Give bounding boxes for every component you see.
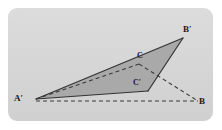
vertex-label-b-prime: B′ (183, 25, 192, 34)
vertex-label-a-prime: A′ (14, 94, 23, 103)
figure-container: A′ B′ B C C′ (0, 0, 222, 130)
vertex-label-b: B (199, 97, 205, 106)
vertex-label-c-prime: C′ (133, 79, 141, 87)
geometry-diagram (0, 0, 222, 130)
vertex-label-c: C (137, 52, 143, 60)
